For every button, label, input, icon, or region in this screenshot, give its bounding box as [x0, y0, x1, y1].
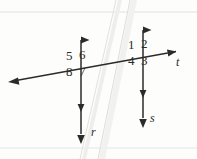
angle-label-2: 2: [141, 37, 148, 50]
scan-artifact-rules: [0, 12, 197, 148]
angle-label-7: 7: [79, 65, 86, 78]
figure-canvas: [0, 0, 197, 159]
line-label-s: s: [150, 112, 155, 124]
geometry-figure: 5 6 7 8 1 2 3 4 r s t: [0, 0, 197, 159]
scan-artifact-streaks: [80, 0, 137, 159]
angle-label-6: 6: [79, 48, 86, 61]
angle-label-3: 3: [141, 54, 148, 67]
line-label-r: r: [91, 126, 96, 138]
line-label-t: t: [176, 56, 179, 68]
angle-label-8: 8: [66, 65, 73, 78]
angle-label-5: 5: [66, 49, 73, 62]
angle-label-1: 1: [128, 38, 135, 51]
angle-label-4: 4: [128, 54, 135, 67]
line-t: [8, 52, 176, 85]
